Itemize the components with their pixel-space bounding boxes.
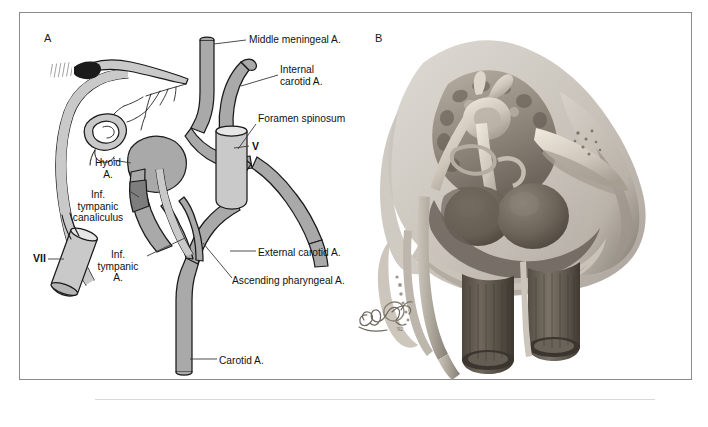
figure-bottom-rule [95, 399, 655, 400]
label-middle-meningeal-artery: Middle meningeal A. [249, 34, 341, 46]
label-carotid-artery: Carotid A. [219, 355, 264, 367]
label-internal-carotid-artery: Internal carotid A. [280, 64, 322, 87]
label-nerve-vii: VII [33, 253, 46, 265]
panel-label-b: B [375, 32, 383, 44]
panel-label-a: A [44, 32, 52, 44]
label-hyoid-artery: Hyoid A. [84, 157, 132, 180]
label-external-carotid-artery: External carotid A. [258, 247, 341, 259]
label-nerve-v: V [252, 141, 259, 153]
figure-root: '92 A B Middle meningeal A. Internal car… [0, 0, 708, 427]
label-inferior-tympanic-artery: Inf. tympanic A. [92, 249, 144, 284]
label-inferior-tympanic-canaliculus: Inf. tympanic canaliculus [62, 189, 134, 224]
label-foramen-spinosum: Foramen spinosum [258, 113, 345, 125]
label-ascending-pharyngeal-artery: Ascending pharyngeal A. [232, 275, 345, 287]
